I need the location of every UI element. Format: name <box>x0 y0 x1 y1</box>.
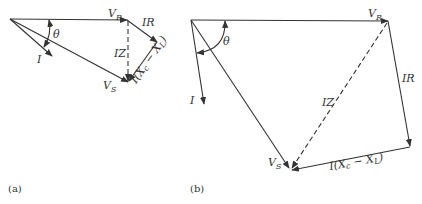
label-iz-b: IZ <box>321 96 334 109</box>
label-vs-a: VS <box>103 79 117 94</box>
label-iz-a: IZ <box>113 47 126 60</box>
label-vs-b: VS <box>268 156 282 171</box>
label-ir-b: IR <box>401 72 415 85</box>
iz-phasor-b <box>292 23 387 168</box>
panel-a: VR IR IZ VS I θ I(Xc − XL) (a) <box>8 7 171 194</box>
label-theta-a: θ <box>53 28 60 41</box>
label-ixcxl-a: I(Xc − XL) <box>127 34 170 88</box>
caption-a: (a) <box>8 183 22 194</box>
theta-arc-b <box>197 21 225 53</box>
theta-arc-a <box>44 20 50 47</box>
i-phasor-b <box>191 20 204 104</box>
vs-phasor-a <box>10 19 128 82</box>
label-i-a: I <box>36 53 42 66</box>
phasor-diagrams: VR IR IZ VS I θ I(Xc − XL) (a) VR IR IZ … <box>0 0 422 204</box>
label-vr-a: VR <box>108 7 122 22</box>
caption-b: (b) <box>190 183 204 194</box>
label-i-b: I <box>189 94 195 107</box>
vr-phasor-b <box>191 20 388 21</box>
panel-b: VR IR IZ VS I θ I(Xc − XL) (b) <box>189 7 415 194</box>
vs-phasor-b <box>191 20 289 168</box>
label-ir-a: IR <box>141 16 155 29</box>
label-vr-b: VR <box>368 7 382 22</box>
label-theta-b: θ <box>223 35 230 48</box>
